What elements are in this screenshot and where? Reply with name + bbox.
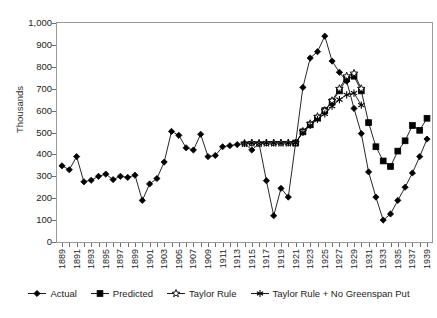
data-point-diamond — [395, 197, 401, 203]
series-canvas — [57, 23, 432, 242]
x-tick-mark — [142, 243, 143, 247]
x-tick-mark — [128, 243, 129, 247]
legend-item-predicted[interactable]: Predicted — [90, 288, 153, 299]
x-tick-mark — [259, 243, 260, 247]
x-tick-label: 1931 — [364, 249, 374, 269]
x-tick-mark — [354, 243, 355, 247]
x-tick-mark — [150, 243, 151, 247]
legend-label: Predicted — [113, 288, 153, 299]
y-tick-label: 400 — [6, 148, 52, 159]
data-point-diamond — [132, 172, 138, 178]
x-tick-mark — [405, 243, 406, 247]
x-tick-label: 1923 — [305, 249, 315, 269]
data-point-diamond — [125, 174, 131, 180]
data-point-diamond — [139, 197, 145, 203]
y-tick-label: 500 — [6, 127, 52, 138]
x-tick-mark — [266, 243, 267, 247]
legend-marker-square-icon — [90, 288, 110, 299]
x-tick-mark — [296, 243, 297, 247]
x-tick-mark — [69, 243, 70, 247]
data-point-diamond — [329, 58, 335, 64]
x-tick-label: 1895 — [101, 249, 111, 269]
x-tick-mark — [420, 243, 421, 247]
chart-figure: Thousands 01002003004005006007008009001,… — [0, 0, 437, 318]
data-point-asterisk — [351, 89, 357, 96]
x-tick-mark — [164, 243, 165, 247]
x-tick-mark — [252, 243, 253, 247]
x-tick-mark — [274, 243, 275, 247]
x-tick-mark — [135, 243, 136, 247]
x-tick-label: 1925 — [320, 249, 330, 269]
data-point-diamond — [271, 213, 277, 219]
data-point-asterisk — [358, 102, 364, 109]
data-point-square — [395, 148, 401, 154]
x-tick-label: 1913 — [232, 249, 242, 269]
x-tick-label: 1893 — [86, 249, 96, 269]
x-tick-label: 1889 — [57, 249, 67, 269]
data-point-diamond — [168, 128, 174, 134]
y-tick-label: 0 — [6, 236, 52, 247]
x-tick-mark — [223, 243, 224, 247]
x-tick-mark — [230, 243, 231, 247]
legend-marker-diamond-icon — [27, 288, 47, 299]
legend-item-actual[interactable]: Actual — [27, 288, 76, 299]
x-tick-label: 1899 — [130, 249, 140, 269]
data-point-diamond — [227, 143, 233, 149]
series-line-actual — [62, 36, 427, 220]
x-tick-mark — [339, 243, 340, 247]
legend-item-taylor-rule[interactable]: Taylor Rule — [166, 288, 237, 299]
y-tick-label: 700 — [6, 83, 52, 94]
data-point-square — [417, 127, 423, 133]
data-point-diamond — [161, 159, 167, 165]
data-point-diamond — [95, 173, 101, 179]
data-point-diamond — [263, 178, 269, 184]
plot-area — [56, 22, 433, 243]
x-tick-label: 1937 — [407, 249, 417, 269]
data-point-diamond — [183, 145, 189, 151]
x-tick-mark — [245, 243, 246, 247]
x-tick-mark — [237, 243, 238, 247]
x-tick-mark — [332, 243, 333, 247]
y-tick-label: 800 — [6, 61, 52, 72]
x-tick-label: 1927 — [334, 249, 344, 269]
data-point-diamond — [351, 105, 357, 111]
y-tick-label: 200 — [6, 192, 52, 203]
x-tick-mark — [62, 243, 63, 247]
data-point-diamond — [424, 136, 430, 142]
x-tick-mark — [157, 243, 158, 247]
data-point-diamond — [190, 147, 196, 153]
x-tick-label: 1915 — [247, 249, 257, 269]
x-tick-label: 1911 — [218, 249, 228, 268]
x-tick-label: 1917 — [261, 249, 271, 269]
y-tick-label: 600 — [6, 105, 52, 116]
x-tick-mark — [120, 243, 121, 247]
data-point-diamond — [34, 290, 40, 296]
x-tick-mark — [325, 243, 326, 247]
data-point-diamond — [322, 33, 328, 39]
data-point-diamond — [366, 169, 372, 175]
legend-label: Actual — [50, 288, 76, 299]
x-tick-mark — [398, 243, 399, 247]
x-tick-mark — [179, 243, 180, 247]
data-point-diamond — [81, 179, 87, 185]
legend-marker-asterisk-icon — [250, 288, 270, 299]
data-point-square — [424, 115, 430, 121]
x-tick-label: 1903 — [159, 249, 169, 269]
x-tick-mark — [318, 243, 319, 247]
data-point-diamond — [234, 141, 240, 147]
x-tick-label: 1897 — [115, 249, 125, 269]
data-point-diamond — [409, 170, 415, 176]
x-tick-mark — [427, 243, 428, 247]
x-tick-label: 1891 — [72, 249, 82, 269]
data-point-square — [97, 291, 103, 297]
data-point-diamond — [373, 194, 379, 200]
x-tick-mark — [77, 243, 78, 247]
x-tick-mark — [113, 243, 114, 247]
data-point-diamond — [358, 130, 364, 136]
x-tick-mark — [106, 243, 107, 247]
x-tick-mark — [376, 243, 377, 247]
x-tick-mark — [193, 243, 194, 247]
data-point-square — [388, 164, 394, 170]
x-tick-label: 1907 — [188, 249, 198, 269]
legend-item-taylor-rule-no-greenspan-put[interactable]: Taylor Rule + No Greenspan Put — [250, 288, 410, 299]
